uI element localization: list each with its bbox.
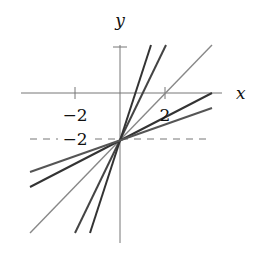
line-slope-third [30,108,212,172]
y-tick-label-neg2: −2 [62,129,87,149]
line-plot: y x −2 2 −2 [0,0,257,253]
x-axis-label: x [236,83,246,103]
x-tick-label-neg2: −2 [62,105,87,125]
x-tick-label-2: 2 [160,105,171,125]
y-axis-label: y [114,10,125,30]
